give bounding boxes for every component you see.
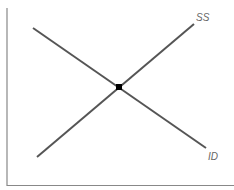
id-label: ID xyxy=(208,151,218,162)
equilibrium-point xyxy=(116,84,122,90)
chart: SS ID xyxy=(0,0,234,190)
ss-label: SS xyxy=(196,12,210,23)
ss-curve xyxy=(37,24,194,157)
